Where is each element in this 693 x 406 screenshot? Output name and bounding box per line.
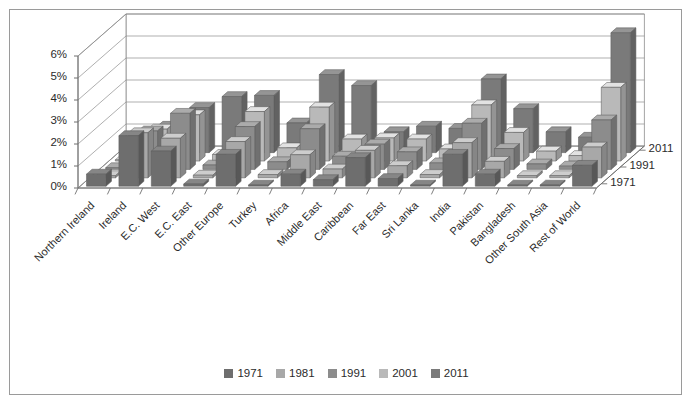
bar-side-face bbox=[310, 150, 316, 178]
bar bbox=[86, 169, 111, 186]
bar-front-face bbox=[346, 158, 365, 187]
bar bbox=[443, 149, 468, 186]
y-axis-tick-label: 5% bbox=[33, 70, 67, 82]
legend-item[interactable]: 1981 bbox=[276, 367, 315, 379]
bar-side-face bbox=[209, 103, 215, 153]
depth-axis-label: 1971 bbox=[610, 176, 650, 188]
bar-side-face bbox=[200, 110, 206, 161]
category-tick bbox=[529, 188, 532, 194]
category-tick bbox=[334, 188, 337, 194]
category-tick bbox=[205, 188, 208, 194]
bar-side-face bbox=[236, 149, 242, 186]
bar bbox=[151, 146, 176, 186]
bar-side-face bbox=[171, 146, 177, 186]
bar bbox=[475, 169, 500, 186]
bar-side-face bbox=[566, 127, 572, 153]
bar-side-face bbox=[472, 138, 478, 178]
bar-front-face bbox=[572, 165, 591, 186]
bar-front-face bbox=[86, 174, 105, 186]
bar-side-face bbox=[426, 134, 432, 161]
bar-front-face bbox=[540, 185, 559, 186]
bar-front-face bbox=[216, 154, 235, 186]
category-tick bbox=[75, 188, 78, 194]
legend-item[interactable]: 1971 bbox=[224, 367, 263, 379]
bar-front-face bbox=[119, 136, 138, 187]
y-axis-tick-label: 0% bbox=[33, 180, 67, 192]
category-tick bbox=[367, 188, 370, 194]
bar bbox=[258, 170, 283, 178]
bar-side-face bbox=[255, 122, 261, 170]
bar-side-face bbox=[514, 144, 520, 170]
bar-front-face bbox=[258, 175, 277, 178]
bar-side-face bbox=[621, 82, 627, 161]
bar bbox=[216, 149, 241, 186]
bar bbox=[268, 157, 293, 170]
category-tick bbox=[431, 188, 434, 194]
bar-side-face bbox=[329, 102, 335, 161]
bar-side-face bbox=[602, 142, 608, 178]
category-tick bbox=[269, 188, 272, 194]
bar-side-face bbox=[180, 133, 186, 177]
legend-label: 1991 bbox=[341, 367, 367, 379]
legend-swatch bbox=[276, 369, 285, 378]
bar-front-face bbox=[517, 176, 536, 178]
bar-front-face bbox=[378, 179, 397, 187]
category-tick bbox=[399, 188, 402, 194]
bar-side-face bbox=[274, 91, 280, 153]
category-tick bbox=[464, 188, 467, 194]
bar bbox=[420, 170, 445, 178]
bar-side-face bbox=[138, 131, 144, 186]
bar-front-face bbox=[508, 185, 527, 186]
bar-side-face bbox=[462, 149, 468, 186]
bar bbox=[572, 160, 597, 186]
bar-front-face bbox=[193, 175, 212, 178]
legend-item[interactable]: 2011 bbox=[431, 367, 469, 379]
bar-side-face bbox=[190, 108, 196, 169]
bar-front-face bbox=[527, 164, 546, 170]
bar-side-face bbox=[524, 128, 530, 161]
depth-axis-label: 1991 bbox=[629, 159, 669, 171]
y-axis-tick-label: 4% bbox=[33, 92, 67, 104]
legend-swatch bbox=[328, 369, 337, 378]
bar-front-face bbox=[268, 162, 287, 170]
bar-front-face bbox=[420, 175, 439, 178]
category-tick bbox=[593, 188, 596, 194]
bar-front-face bbox=[410, 185, 429, 186]
bar bbox=[346, 153, 371, 186]
bar-front-face bbox=[184, 184, 203, 186]
plot-area-3d: 0%1%2%3%4%5%6%197119912011Northern Irela… bbox=[0, 0, 693, 406]
bar-front-face bbox=[248, 185, 267, 186]
chart-legend: 19711981199120012011 bbox=[0, 363, 693, 383]
category-tick bbox=[172, 188, 175, 194]
y-axis-tick-label: 6% bbox=[33, 48, 67, 60]
bar-side-face bbox=[264, 107, 270, 161]
bar-side-face bbox=[592, 160, 598, 186]
legend-swatch bbox=[224, 369, 233, 378]
bar-side-face bbox=[245, 137, 251, 178]
legend-label: 2011 bbox=[444, 367, 469, 379]
bar-side-face bbox=[375, 145, 381, 177]
legend-swatch bbox=[379, 369, 388, 378]
bar-side-face bbox=[611, 115, 617, 169]
legend-label: 1981 bbox=[289, 367, 315, 379]
legend-item[interactable]: 2001 bbox=[379, 367, 418, 379]
bar-front-face bbox=[475, 174, 494, 186]
legend-label: 2001 bbox=[392, 367, 418, 379]
bar-side-face bbox=[320, 124, 326, 170]
bar-front-face bbox=[313, 180, 332, 187]
bar-front-face bbox=[151, 151, 170, 186]
category-tick bbox=[237, 188, 240, 194]
bar-front-face bbox=[443, 154, 462, 186]
category-tick bbox=[561, 188, 564, 194]
legend-item[interactable]: 1991 bbox=[328, 367, 367, 379]
depth-axis-label: 2011 bbox=[649, 142, 689, 154]
y-axis-tick-label: 1% bbox=[33, 158, 67, 170]
legend-label: 1971 bbox=[237, 367, 263, 379]
legend-swatch bbox=[431, 369, 440, 378]
bar bbox=[281, 169, 306, 186]
bar bbox=[119, 131, 144, 186]
bar-side-face bbox=[533, 104, 539, 153]
category-tick bbox=[496, 188, 499, 194]
bar-front-face bbox=[281, 174, 300, 186]
bar bbox=[378, 174, 403, 187]
